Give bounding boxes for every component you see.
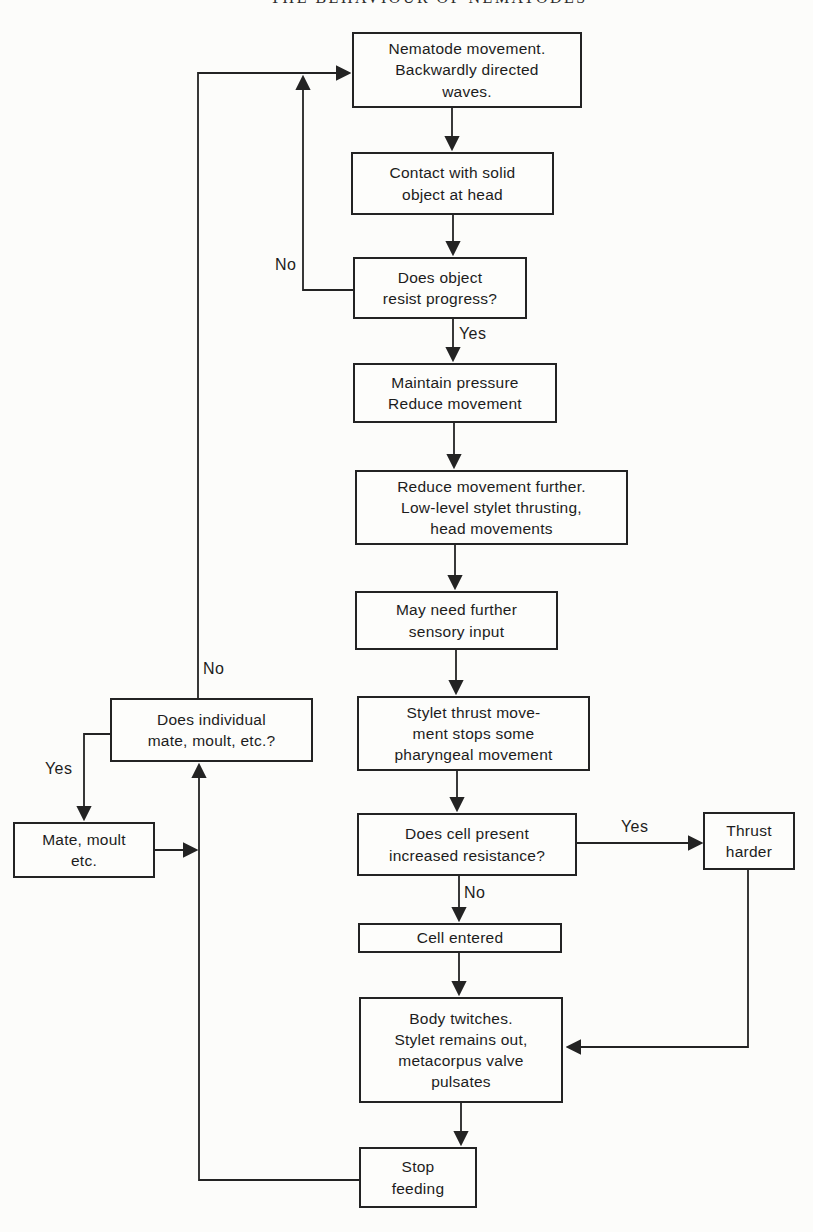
node-reduce-movement-further: Reduce movement further. Low-level style… xyxy=(355,470,628,545)
label-no-object-resist: No xyxy=(275,256,296,274)
label-no-cell-resist: No xyxy=(464,884,485,902)
edge-resist-no-loop xyxy=(303,77,353,290)
node-may-need-sensory-input: May need further sensory input xyxy=(355,591,558,650)
edge-individual-yes-mate xyxy=(84,734,110,819)
node-stylet-thrust-movement: Stylet thrust move- ment stops some phar… xyxy=(357,696,590,771)
edge-individual-no-loop xyxy=(198,73,349,698)
label-yes-individual: Yes xyxy=(45,760,72,778)
book-page: THE BEHAVIOUR OF NEMATODES xyxy=(0,0,813,1232)
label-yes-object-resist: Yes xyxy=(459,325,486,343)
node-contact-solid-object: Contact with solid object at head xyxy=(351,152,554,215)
label-yes-cell-resist: Yes xyxy=(621,818,648,836)
node-stop-feeding: Stop feeding xyxy=(359,1147,477,1208)
node-does-object-resist: Does object resist progress? xyxy=(353,257,527,319)
node-mate-moult: Mate, moult etc. xyxy=(13,822,155,878)
node-does-individual-mate: Does individual mate, moult, etc.? xyxy=(110,698,313,762)
node-does-cell-resist: Does cell present increased resistance? xyxy=(357,813,577,876)
node-nematode-movement: Nematode movement. Backwardly directed w… xyxy=(352,32,582,108)
node-body-twitches: Body twitches. Stylet remains out, metac… xyxy=(359,997,563,1103)
edge-stop-individual xyxy=(199,765,359,1180)
node-cell-entered: Cell entered xyxy=(358,923,562,953)
node-maintain-pressure: Maintain pressure Reduce movement xyxy=(353,363,557,423)
node-thrust-harder: Thrust harder xyxy=(703,812,795,870)
label-no-individual: No xyxy=(203,660,224,678)
edge-thrust-twitches xyxy=(568,870,748,1047)
